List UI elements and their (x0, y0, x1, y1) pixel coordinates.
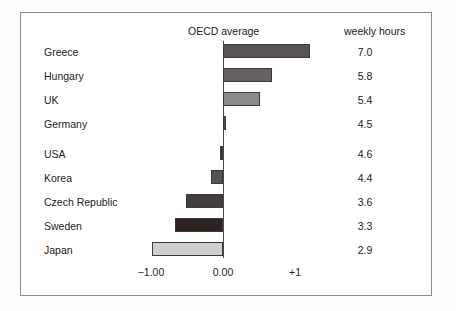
x-tick-label: −1.00 (121, 266, 181, 278)
weekly-hours-value: 4.5 (344, 118, 386, 130)
weekly-hours-value: 5.4 (344, 94, 386, 106)
plot-area: Greece7.0Hungary5.8UK5.4Germany4.5USA4.6… (0, 0, 456, 311)
x-tick-label: 0.00 (193, 266, 253, 278)
bar-greece (223, 44, 310, 58)
bar-sweden (175, 218, 223, 232)
chart-figure: OECD average weekly hours Greece7.0Hunga… (0, 0, 456, 311)
country-label: Sweden (44, 220, 82, 232)
weekly-hours-value: 2.9 (344, 244, 386, 256)
x-tick-label: +1 (265, 266, 325, 278)
weekly-hours-value: 7.0 (344, 46, 386, 58)
bar-czech-republic (186, 194, 223, 208)
country-label: UK (44, 94, 59, 106)
table-row: Korea4.4 (0, 167, 456, 191)
table-row: Japan2.9 (0, 239, 456, 263)
bar-germany (223, 116, 226, 130)
weekly-hours-value: 3.6 (344, 196, 386, 208)
weekly-hours-value: 4.4 (344, 172, 386, 184)
table-row: Sweden3.3 (0, 215, 456, 239)
bar-japan (152, 242, 223, 256)
bar-usa (220, 146, 223, 160)
weekly-hours-value: 5.8 (344, 70, 386, 82)
country-label: Japan (44, 244, 73, 256)
bar-hungary (223, 68, 272, 82)
bar-uk (223, 92, 260, 106)
country-label: Germany (44, 118, 87, 130)
table-row: Czech Republic3.6 (0, 191, 456, 215)
country-label: Hungary (44, 70, 84, 82)
table-row: UK5.4 (0, 89, 456, 113)
country-label: USA (44, 148, 66, 160)
bar-korea (211, 170, 223, 184)
country-label: Korea (44, 172, 72, 184)
table-row: Germany4.5 (0, 113, 456, 137)
table-row: USA4.6 (0, 143, 456, 167)
table-row: Greece7.0 (0, 41, 456, 65)
country-label: Greece (44, 46, 78, 58)
table-row: Hungary5.8 (0, 65, 456, 89)
country-label: Czech Republic (44, 196, 118, 208)
weekly-hours-value: 3.3 (344, 220, 386, 232)
weekly-hours-value: 4.6 (344, 148, 386, 160)
